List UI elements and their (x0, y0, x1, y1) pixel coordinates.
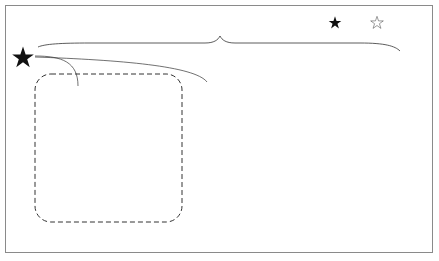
diagram-frame (6, 6, 433, 253)
